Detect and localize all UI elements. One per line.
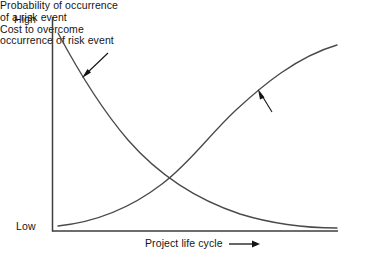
chart-canvas bbox=[0, 0, 385, 257]
x-axis-arrow-icon bbox=[229, 241, 260, 248]
risk-lifecycle-chart: High Low Probability of occurrence of a … bbox=[0, 0, 385, 257]
x-axis-title: Project life cycle bbox=[145, 238, 223, 250]
cost-curve bbox=[58, 45, 337, 226]
cost-leader-arrow bbox=[258, 89, 272, 112]
probability-curve bbox=[58, 33, 337, 228]
y-axis-low-label: Low bbox=[16, 221, 36, 233]
probability-leader-arrow bbox=[82, 53, 108, 78]
y-axis-high-label: High bbox=[14, 14, 36, 26]
